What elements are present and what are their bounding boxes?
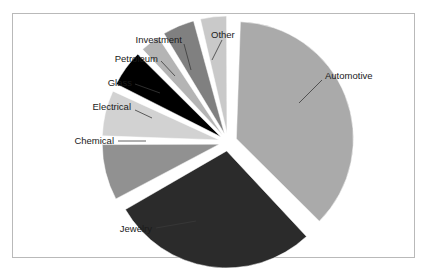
- label-jewelry: Jewelry: [120, 223, 152, 234]
- label-other: Other: [211, 29, 235, 40]
- label-automotive: Automotive: [325, 70, 373, 81]
- label-glass: Glass: [108, 77, 133, 88]
- label-petroleum: Petroleum: [115, 53, 158, 64]
- pie-chart: Automotive Jewelry Chemical Electrical G…: [0, 0, 431, 273]
- label-chemical: Chemical: [74, 135, 114, 146]
- label-investment: Investment: [136, 34, 183, 45]
- label-electrical: Electrical: [92, 101, 131, 112]
